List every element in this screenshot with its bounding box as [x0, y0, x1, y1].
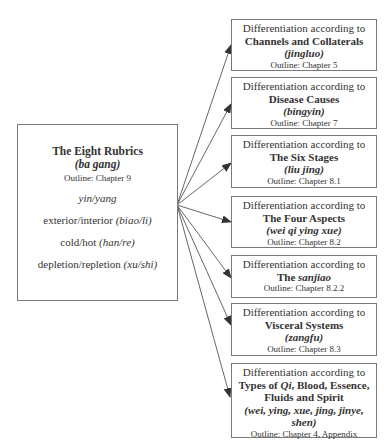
box-six-stages: Differentiation according to The Six Sta… [231, 135, 377, 188]
arrow-to-types-of-qi [177, 205, 230, 397]
eight-rubrics-box: The Eight Rubrics (ba gang) Outline: Cha… [17, 124, 178, 301]
box-pinyin: (liu jing) [232, 163, 376, 176]
box-outline: Outline: Chapter 8.3 [232, 344, 376, 356]
box-heading: Disease Causes [232, 93, 376, 106]
arrow-to-channels [177, 45, 231, 205]
box-four-aspects: Differentiation according to The Four As… [231, 196, 377, 248]
box-pinyin: (bingyin) [232, 105, 376, 118]
arrow-to-four-aspects [177, 205, 231, 222]
arrow-to-disease-causes [177, 104, 231, 205]
box-types-of-qi: Differentiation according to Types of Qi… [231, 363, 377, 438]
eight-rubrics-title: The Eight Rubrics [18, 145, 177, 158]
lead-text: Differentiation according to [232, 366, 376, 379]
eight-rubrics-pinyin: (ba gang) [18, 158, 177, 171]
box-channels-collaterals: Differentiation according to Channels an… [231, 19, 377, 71]
box-heading: Channels and Collaterals [232, 35, 376, 48]
box-disease-causes: Differentiation according to Disease Cau… [231, 77, 377, 129]
lead-text: Differentiation according to [232, 80, 376, 93]
lead-text: Differentiation according to [232, 22, 376, 35]
lead-text: Differentiation according to [232, 199, 376, 212]
rubric-cold-hot: cold/hot (han/re) [18, 236, 177, 249]
arrow-to-sanjiao [177, 205, 231, 278]
box-outline: Outline: Chapter 8.2 [232, 237, 376, 249]
box-heading: The sanjiao [232, 271, 376, 284]
box-sanjiao: Differentiation according to The sanjiao… [231, 255, 377, 298]
box-pinyin-line2: shen) [232, 416, 376, 429]
box-visceral-systems: Differentiation according to Visceral Sy… [231, 303, 377, 356]
box-heading-line2: Fluids and Spirit [232, 391, 376, 404]
arrow-to-visceral [177, 205, 231, 325]
box-heading: The Six Stages [232, 151, 376, 164]
lead-text: Differentiation according to [232, 138, 376, 151]
box-outline: Outline: Chapter 4, Appendix [232, 429, 376, 441]
box-outline: Outline: Chapter 5 [232, 60, 376, 72]
lead-text: Differentiation according to [232, 258, 376, 271]
box-outline: Outline: Chapter 8.2.2 [232, 283, 376, 295]
lead-text: Differentiation according to [232, 306, 376, 319]
eight-rubrics-outline: Outline: Chapter 9 [18, 172, 177, 184]
box-heading: The Four Aspects [232, 212, 376, 225]
box-heading: Types of Qi, Blood, Essence, [232, 379, 376, 392]
box-pinyin: (wei qi ying xue) [232, 224, 376, 237]
box-pinyin: (wei, ying, xue, jing, jinye, [232, 404, 376, 417]
rubric-exterior-interior: exterior/interior (biao/li) [18, 214, 177, 227]
box-heading: Visceral Systems [232, 319, 376, 332]
box-outline: Outline: Chapter 7 [232, 118, 376, 130]
rubric-depletion-repletion: depletion/repletion (xu/shi) [18, 258, 177, 271]
rubric-yin-yang: yin/yang [18, 192, 177, 205]
box-pinyin: (jingluo) [232, 47, 376, 60]
arrow-to-six-stages [177, 163, 231, 205]
box-pinyin: (zangfu) [232, 331, 376, 344]
box-outline: Outline: Chapter 8.1 [232, 176, 376, 188]
